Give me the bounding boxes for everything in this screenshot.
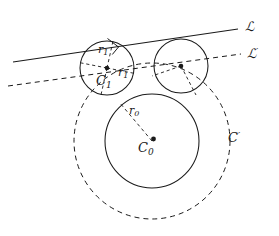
label-radius-r1-lower-subscript: 1 — [123, 71, 128, 80]
label-line-l-prime-mark: ′ — [256, 46, 258, 57]
label-line-l-text: ℒ — [245, 19, 254, 34]
geometry-figure: ℒ ℒ′ C′ r1 r1 r0 C1 C0 — [0, 0, 279, 236]
figure-canvas — [0, 0, 279, 236]
radius-spoke-right-down — [181, 66, 196, 95]
label-radius-r1-upper-subscript: 1 — [103, 48, 108, 57]
radius-spoke-r1-left — [81, 63, 108, 68]
label-radius-r1-lower: r1 — [118, 67, 128, 80]
label-circle-c-prime-text: C — [228, 130, 238, 145]
label-center-c0-subscript: 0 — [148, 147, 154, 157]
label-line-l-prime-text: ℒ — [247, 46, 256, 61]
label-center-c1-subscript: 1 — [106, 80, 112, 90]
label-line-l: ℒ — [245, 20, 254, 33]
label-center-c0-text: C — [138, 140, 148, 155]
tangent-line-l — [13, 29, 238, 62]
label-circle-c-prime: C′ — [228, 131, 240, 144]
center-dot-right-circle — [179, 64, 184, 69]
label-radius-r0-subscript: 0 — [134, 109, 139, 118]
label-radius-r1-upper: r1 — [98, 44, 108, 57]
label-center-c1-text: C — [96, 73, 106, 88]
radius-spoke-right-sw — [152, 66, 181, 76]
center-dot-c1 — [105, 66, 110, 71]
label-circle-c-prime-mark: ′ — [238, 130, 240, 141]
label-center-c0: C0 — [138, 141, 154, 157]
label-radius-r0: r0 — [129, 105, 139, 118]
label-line-l-prime: ℒ′ — [247, 47, 258, 60]
label-center-c1: C1 — [96, 74, 112, 90]
